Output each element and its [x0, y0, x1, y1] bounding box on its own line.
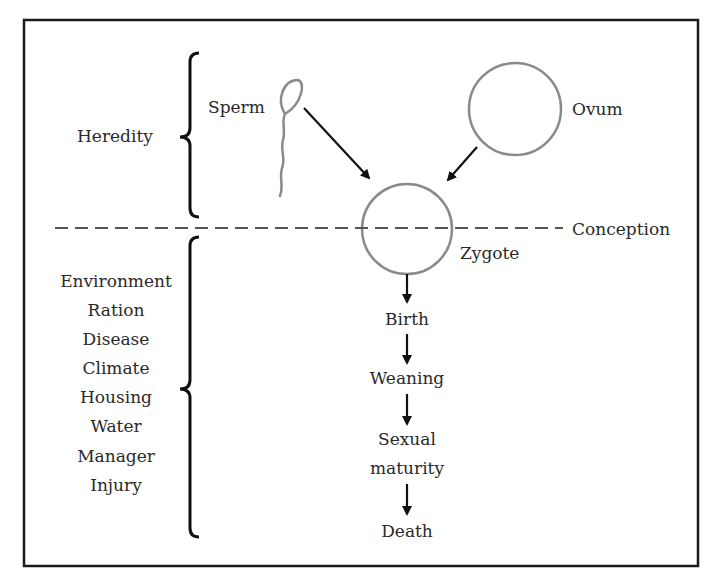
environment-factor: Disease — [83, 329, 150, 349]
ovum-label: Ovum — [572, 99, 623, 119]
environment-factor: Manager — [77, 446, 156, 466]
stage-death: Death — [381, 521, 433, 541]
stage-weaning: Weaning — [370, 368, 445, 388]
sperm-icon — [280, 80, 302, 196]
ovum-circle — [469, 63, 561, 155]
environment-factor: Ration — [88, 300, 145, 320]
heredity-environment-diagram: Heredity Sperm Ovum Zygote Conception En… — [0, 0, 720, 582]
sperm-label: Sperm — [208, 97, 265, 117]
zygote-label: Zygote — [460, 243, 519, 263]
environment-factor: Water — [90, 416, 142, 436]
heredity-brace-icon — [180, 53, 199, 217]
environment-factors-list: Environment Ration Disease Climate Housi… — [60, 271, 172, 495]
environment-factor: Climate — [82, 358, 149, 378]
zygote-circle — [362, 184, 452, 274]
stage-sexual-maturity-line2: maturity — [370, 458, 444, 478]
life-stages-flow: Birth Weaning Sexual maturity Death — [370, 274, 445, 541]
environment-factor: Injury — [90, 475, 142, 495]
ovum-arrow-icon — [448, 147, 477, 180]
stage-birth: Birth — [385, 309, 429, 329]
environment-factor: Housing — [80, 387, 152, 407]
conception-label: Conception — [572, 219, 670, 239]
sperm-arrow-icon — [304, 108, 369, 178]
stage-sexual-maturity-line1: Sexual — [378, 429, 436, 449]
environment-brace-icon — [180, 237, 199, 537]
heredity-label: Heredity — [77, 126, 153, 146]
environment-factor: Environment — [60, 271, 172, 291]
